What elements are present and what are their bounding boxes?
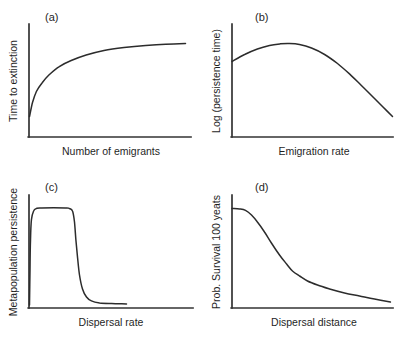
x-axis-label-d: Dispersal distance: [232, 316, 396, 328]
x-axis-label-b: Emigration rate: [232, 145, 396, 157]
curve-a: [30, 44, 186, 117]
panel-c: (c) Metapopulation persistence Dispersal…: [0, 168, 203, 337]
x-axis-label-c: Dispersal rate: [29, 316, 193, 328]
plot-area-d: [230, 194, 406, 310]
curve-c: [30, 208, 127, 305]
panel-b: (b) Log (persistence time) Emigration ra…: [203, 0, 406, 168]
x-axis-label-a: Number of emigrants: [29, 145, 193, 157]
panel-letter-c: (c): [45, 181, 58, 193]
y-axis-label-d: Prob. Survival 100 yeats: [210, 195, 222, 309]
plot-area-a: [27, 23, 203, 139]
panel-letter-d: (d): [255, 181, 268, 193]
curve-b: [232, 43, 393, 116]
panel-a: (a) Time to extinction Number of emigran…: [0, 0, 203, 168]
plot-area-c: [27, 194, 203, 310]
panel-letter-a: (a): [45, 11, 58, 23]
y-axis-label-a: Time to extinction: [7, 40, 19, 122]
plot-area-b: [230, 23, 406, 139]
y-axis-label-b: Log (persistence time): [210, 29, 222, 133]
figure-canvas: (a) Time to extinction Number of emigran…: [0, 0, 406, 337]
curve-d: [232, 209, 390, 303]
panel-d: (d) Prob. Survival 100 yeats Dispersal d…: [203, 168, 406, 337]
y-axis-label-c: Metapopulation persistence: [7, 188, 19, 316]
panel-letter-b: (b): [255, 11, 268, 23]
